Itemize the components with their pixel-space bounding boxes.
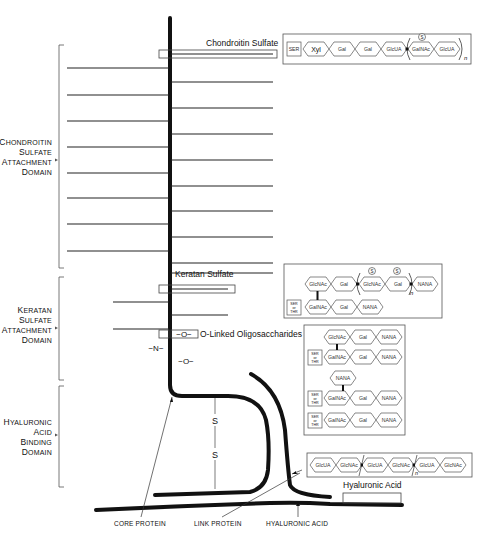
svg-text:NANA: NANA: [418, 281, 433, 287]
svg-text:DOMAIN: DOMAIN: [22, 167, 52, 177]
chondroitin-sulfate-caption: Chondroitin Sulfate: [206, 38, 279, 48]
svg-text:THR: THR: [290, 310, 298, 314]
svg-text:NANA: NANA: [382, 334, 397, 340]
o-linked-detail: GlcNAc Gal NANA GalNAc Gal NANA NANA Gal…: [304, 325, 405, 435]
svg-text:GlcNAc: GlcNAc: [363, 281, 381, 287]
svg-text:GalNAc: GalNAc: [328, 354, 346, 360]
svg-text:GalNAc: GalNAc: [328, 417, 346, 423]
svg-text:GlcUA: GlcUA: [440, 46, 456, 52]
disulfide-s1: S: [212, 416, 218, 426]
svg-text:Gal: Gal: [359, 417, 367, 423]
svg-text:SULFATE: SULFATE: [19, 147, 52, 157]
svg-text:BINDING: BINDING: [20, 437, 52, 447]
hyaluronic-acid-caption: Hyaluronic Acid: [343, 480, 402, 490]
svg-text:n: n: [415, 470, 418, 476]
svg-text:DOMAIN: DOMAIN: [22, 447, 52, 457]
chondroitin-detail: SER Xyl Gal Gal GlcUA GalNAc GlcUA S n: [283, 34, 471, 65]
svg-text:NANA: NANA: [382, 417, 397, 423]
chondroitin-domain-label: CHONDROITIN SULFATE ATTACHMENT DOMAIN: [0, 137, 53, 177]
svg-text:ATTACHMENT: ATTACHMENT: [2, 325, 53, 335]
svg-text:GlcNAc: GlcNAc: [309, 281, 327, 287]
svg-text:Gal: Gal: [394, 281, 402, 287]
keratan-domain-label: KERATAN SULFATE ATTACHMENT DOMAIN: [2, 305, 53, 345]
svg-text:GlcUA: GlcUA: [368, 462, 384, 468]
link-protein-label: LINK PROTEIN: [194, 520, 242, 527]
svg-text:NANA: NANA: [336, 375, 351, 381]
svg-text:KERATAN: KERATAN: [18, 305, 52, 315]
keratan-detail: SER or THR GlcNAc Gal GlcNAc Gal NANA Ga…: [284, 264, 442, 318]
hyaluronic-acid-strand: [96, 503, 402, 510]
o-link-label-2: −O−: [178, 357, 194, 366]
hyaluronic-detail: GlcUA GlcNAc GlcUA GlcNAc GlcUA GlcNAc n: [307, 453, 472, 477]
hyaluronic-acid-label: HYALURONIC ACID: [266, 520, 328, 527]
svg-text:Gal: Gal: [359, 334, 367, 340]
n-link-label: −N−: [148, 344, 163, 353]
svg-text:Gal: Gal: [338, 46, 346, 52]
disulfide-s2: S: [212, 450, 218, 460]
svg-text:Gal: Gal: [359, 354, 367, 360]
proteoglycan-diagram: CHONDROITIN SULFATE ATTACHMENT DOMAIN KE…: [0, 0, 492, 537]
o-linked-caption: O-Linked Oligosaccharides: [200, 329, 302, 339]
svg-text:GlcNAc: GlcNAc: [444, 462, 462, 468]
svg-text:GlcUA: GlcUA: [420, 462, 436, 468]
svg-text:GalNAc: GalNAc: [328, 395, 346, 401]
o-linked-box-left: [159, 330, 169, 338]
svg-text:NANA: NANA: [382, 354, 397, 360]
svg-text:GlcUA: GlcUA: [387, 46, 403, 52]
svg-text:Gal: Gal: [364, 46, 372, 52]
svg-text:NANA: NANA: [363, 304, 378, 310]
svg-text:S: S: [370, 269, 373, 274]
core-protein-label: CORE PROTEIN: [114, 520, 166, 527]
svg-text:THR: THR: [311, 401, 319, 405]
svg-text:GlcNAc: GlcNAc: [340, 462, 358, 468]
svg-text:THR: THR: [311, 360, 319, 364]
svg-text:NANA: NANA: [382, 395, 397, 401]
svg-text:SER: SER: [289, 46, 300, 52]
svg-text:GlcNAc: GlcNAc: [392, 462, 410, 468]
svg-text:ACID: ACID: [33, 427, 52, 437]
hyaluronic-highlight-box: [343, 493, 401, 503]
svg-text:ATTACHMENT: ATTACHMENT: [2, 157, 53, 167]
svg-text:CHONDROITIN: CHONDROITIN: [0, 137, 52, 147]
domain-brackets: [59, 45, 64, 487]
svg-text:S: S: [395, 269, 398, 274]
svg-text:Gal: Gal: [340, 281, 348, 287]
svg-text:S: S: [420, 35, 423, 40]
svg-text:GlcUA: GlcUA: [316, 462, 332, 468]
svg-text:Gal: Gal: [359, 395, 367, 401]
svg-text:THR: THR: [311, 423, 319, 427]
chondroitin-chains-right: [171, 82, 273, 263]
svg-text:GalNAc: GalNAc: [412, 46, 430, 52]
keratan-sulfate-caption: Keratan Sulfate: [175, 269, 234, 279]
svg-text:GalNAc: GalNAc: [309, 304, 327, 310]
svg-text:Gal: Gal: [340, 304, 348, 310]
svg-text:DOMAIN: DOMAIN: [22, 335, 52, 345]
hyaluronic-domain-label: HYALURONIC ACID BINDING DOMAIN: [4, 417, 52, 457]
chondroitin-chains-left: [67, 68, 169, 251]
svg-text:Xyl: Xyl: [311, 46, 321, 54]
svg-text:SULFATE: SULFATE: [19, 315, 52, 325]
svg-text:GlcNAc: GlcNAc: [328, 334, 346, 340]
svg-text:HYALURONIC: HYALURONIC: [4, 417, 52, 427]
